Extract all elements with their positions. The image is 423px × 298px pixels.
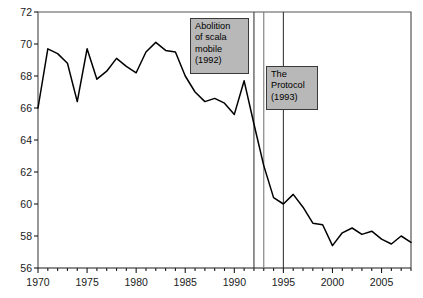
- y-axis-tick-label: 66: [2, 103, 32, 114]
- x-axis-tick-label: 1985: [165, 277, 205, 288]
- y-axis-tick-label: 72: [2, 7, 32, 18]
- y-axis-tick-label: 68: [2, 71, 32, 82]
- y-axis-tick-label: 58: [2, 231, 32, 242]
- y-axis-tick-label: 70: [2, 39, 32, 50]
- x-axis-tick-label: 1995: [263, 277, 303, 288]
- annotation-abolition-scala-mobile: Abolition of scala mobile (1992): [190, 18, 249, 74]
- chart-figure: Abolition of scala mobile (1992) The Pro…: [0, 0, 423, 298]
- x-axis-tick-label: 1970: [18, 277, 58, 288]
- y-axis-tick-label: 60: [2, 199, 32, 210]
- x-axis-tick-label: 2005: [362, 277, 402, 288]
- x-axis-tick-label: 1980: [116, 277, 156, 288]
- x-axis-tick-label: 1990: [214, 277, 254, 288]
- y-axis-tick-label: 56: [2, 263, 32, 274]
- x-axis-tick-label: 1975: [67, 277, 107, 288]
- y-axis-tick-label: 64: [2, 135, 32, 146]
- y-axis-tick-label: 62: [2, 167, 32, 178]
- x-axis-tick-label: 2000: [312, 277, 352, 288]
- annotation-the-protocol: The Protocol (1993): [266, 66, 318, 110]
